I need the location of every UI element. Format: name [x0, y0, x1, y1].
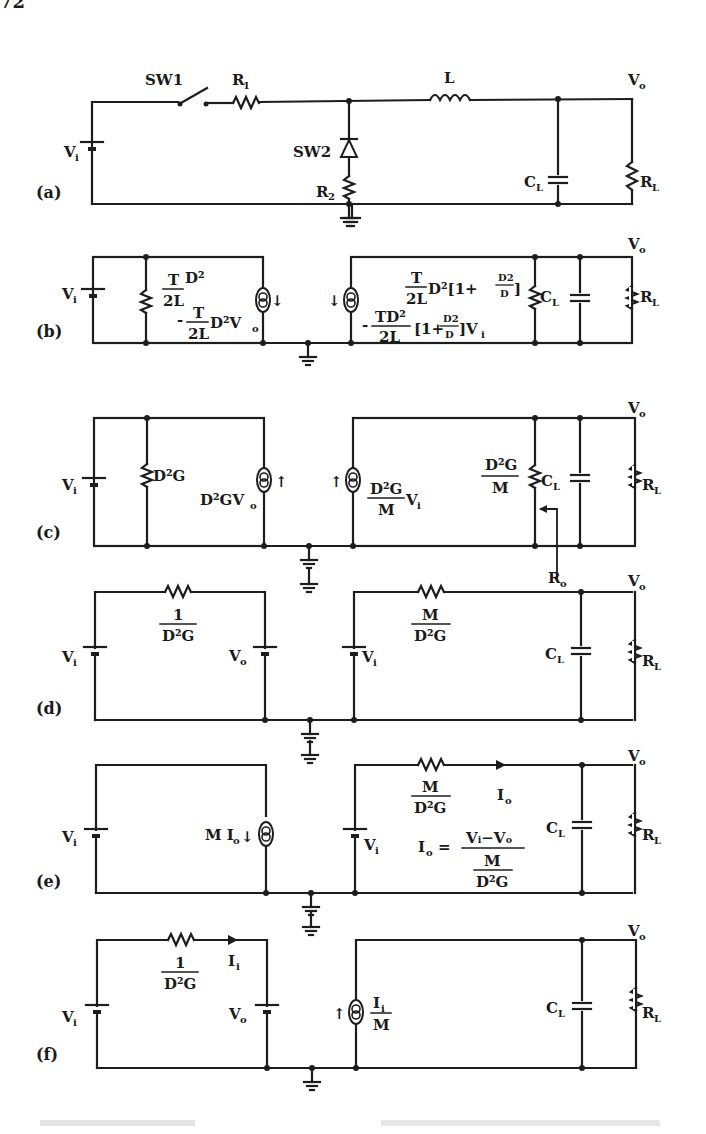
l-label: L [444, 69, 455, 87]
res-tail: D² [185, 269, 205, 287]
src-num: I [373, 994, 380, 1012]
src-label: M I [205, 826, 234, 844]
arrow-down-icon: ↓ [328, 292, 341, 310]
cl-sub: L [536, 182, 543, 193]
rres-frac-den: D [500, 288, 509, 299]
vi-sub: i [73, 837, 77, 848]
lres-num: 1 [175, 954, 185, 972]
rl-sub: L [652, 297, 659, 308]
panel-c: V i V o D²G D²GV o ↑ ↑ D²G M V i D²G M C… [36, 399, 661, 589]
rres-num: M [422, 606, 439, 624]
circuit-figure: 72 SW1 R 1 L V o SW2 [0, 0, 706, 1134]
vo-sub: o [639, 80, 646, 91]
rres-num: T [411, 269, 423, 287]
rl-sub: L [652, 182, 659, 193]
res-label: D²G [153, 467, 185, 485]
vo-sub: o [639, 581, 646, 592]
vi-sub: i [73, 294, 77, 305]
rres-den: D²G [414, 627, 446, 645]
arrow-down-icon: ↓ [241, 828, 254, 846]
panel-label-b: (b) [36, 322, 62, 341]
panel-a: SW1 R 1 L V o SW2 R 2 C L R L V i (a) [36, 69, 659, 226]
ro-sub: o [560, 578, 567, 589]
figure-caption-faint [40, 1120, 660, 1126]
arrow-up-icon: ↑ [333, 1005, 346, 1023]
rres-tail: D²[1+ [428, 280, 478, 298]
rsrc-num: TD² [375, 308, 406, 326]
arrow-down-icon: ↓ [271, 292, 284, 310]
rsrc-mid: [1+ [414, 320, 444, 338]
src-sub: o [250, 500, 257, 511]
io-sub: o [505, 795, 512, 806]
vi-sub: i [73, 485, 77, 496]
ii-sub: i [236, 961, 240, 972]
arrow-up-icon: ↑ [275, 473, 288, 491]
panel-label-a: (a) [36, 183, 62, 202]
cl-label: C [540, 288, 552, 306]
panel-label-f: (f) [36, 1045, 58, 1064]
arrow-up-icon: ↑ [330, 473, 343, 491]
cl-sub: L [553, 481, 560, 492]
panel-b: V i V o T 2L D² - T 2L D²V o ↓ ↓ T 2L D²… [36, 204, 659, 365]
res-den: 2L [163, 292, 184, 310]
res-num: T [168, 271, 180, 289]
page-number: 72 [0, 0, 25, 12]
io-label: I [497, 786, 504, 804]
panel-f: V i V o 1 D²G I i ↑ I i M V o C L R L (f… [36, 913, 661, 1090]
src-tail-sub: o [252, 323, 259, 334]
cl-label: C [524, 173, 536, 191]
lres-num: 1 [173, 606, 183, 624]
rres-den: 2L [406, 290, 427, 308]
vi-right-sub: i [373, 657, 377, 668]
cl-sub: L [552, 297, 559, 308]
vo-left-sub: o [240, 656, 247, 667]
eq-lhs-sub: o [426, 847, 433, 858]
eq-lhs: I [418, 838, 425, 856]
vo-left-sub: o [240, 1014, 247, 1025]
rsrc-frac-den: D [445, 329, 454, 340]
rsrc-close-sub: i [481, 329, 485, 340]
rsrc-num: D²G [370, 480, 402, 498]
cl-sub: L [558, 828, 565, 839]
arrow-right-icon [228, 935, 238, 945]
rl-sub: L [654, 661, 661, 672]
ii-label: I [228, 952, 235, 970]
panel-d: V i V o 1 D²G V i M D²G V o C L R L (d) [36, 570, 661, 742]
arrow-left-icon [539, 505, 547, 513]
rsrc-tail-sub: i [417, 500, 421, 511]
cl-label: C [545, 645, 557, 663]
r2-sub: 2 [328, 191, 335, 202]
vi-right-sub: i [375, 845, 379, 856]
panel-e: V i M I o ↓ V i M D²G I o I o = Vᵢ−Vₒ M … [36, 741, 661, 915]
src-tail: D²V [210, 314, 242, 332]
rsrc-frac-num: D2 [443, 313, 459, 324]
vo-sub: o [639, 756, 646, 767]
vo-sub: o [639, 244, 646, 255]
cl-label: C [546, 819, 558, 837]
rsrc-den: 2L [379, 328, 400, 346]
src-prefix: - [177, 311, 183, 329]
lres-den: D²G [162, 627, 194, 645]
vi-sub: i [73, 1017, 77, 1028]
eq-den-num: M [484, 852, 501, 870]
vo-sub: o [639, 408, 646, 419]
rres-num: M [422, 778, 439, 796]
panel-label-c: (c) [36, 523, 61, 542]
sw2-label: SW2 [293, 143, 331, 161]
cl-sub: L [558, 1008, 565, 1019]
src-sub: o [233, 835, 240, 846]
src-den: 2L [188, 325, 209, 343]
rres-close: ] [514, 280, 521, 298]
panel-label-e: (e) [36, 872, 61, 891]
rres-num: D²G [485, 456, 517, 474]
cl-label: C [541, 472, 553, 490]
vo-sub: o [639, 931, 646, 942]
r1-sub: 1 [243, 80, 250, 91]
rsrc-den: M [378, 501, 395, 519]
rl-sub: L [654, 835, 661, 846]
src-den: M [373, 1016, 390, 1034]
src-label: D²GV [200, 491, 244, 509]
vi-sub: i [73, 657, 77, 668]
arrow-right-icon [496, 760, 506, 770]
lres-den: D²G [164, 975, 196, 993]
